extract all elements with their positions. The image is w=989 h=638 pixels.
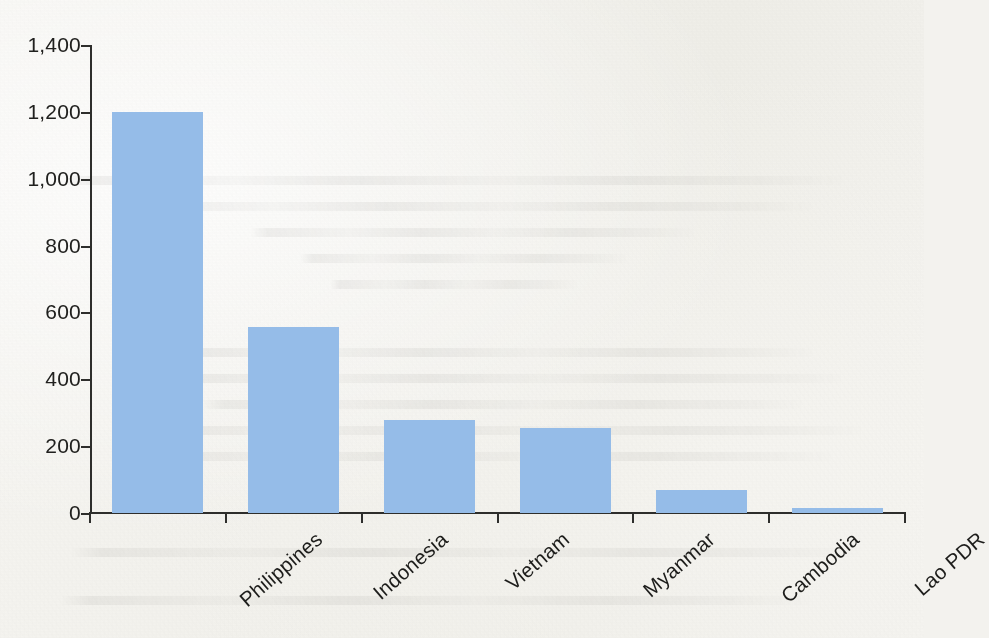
x-axis-tick-mark xyxy=(225,512,227,523)
bar-cambodia xyxy=(656,490,747,513)
x-axis-category-label: Indonesia xyxy=(368,527,452,605)
y-axis-tick-label: 1,400 xyxy=(27,33,81,57)
y-axis-tick-label: 1,000 xyxy=(27,167,81,191)
x-axis-tick-mark xyxy=(497,512,499,523)
y-axis-tick-label: 200 xyxy=(45,434,81,458)
plot-area: 02004006008001,0001,2001,400 xyxy=(90,45,905,513)
x-axis-category-label: Lao PDR xyxy=(910,527,989,601)
x-axis-tick-mark xyxy=(768,512,770,523)
y-axis-tick-label: 600 xyxy=(45,300,81,324)
x-axis-category-label: Vietnam xyxy=(500,527,573,595)
x-axis-tick-mark xyxy=(632,512,634,523)
bar-philippines xyxy=(112,112,203,513)
x-axis-category-label: Philippines xyxy=(235,527,327,612)
y-axis-tick-mark xyxy=(81,179,90,181)
y-axis-tick-mark xyxy=(81,45,90,47)
bar-indonesia xyxy=(248,327,339,513)
y-axis-tick-mark xyxy=(81,246,90,248)
y-axis-tick-mark xyxy=(81,312,90,314)
bar-vietnam xyxy=(384,420,475,513)
x-axis-category-label: Cambodia xyxy=(777,527,864,607)
y-axis-tick-label: 0 xyxy=(69,501,81,525)
y-axis-tick-mark xyxy=(81,379,90,381)
y-axis-tick-label: 800 xyxy=(45,234,81,258)
x-axis-tick-mark xyxy=(89,512,91,523)
y-axis-tick-mark xyxy=(81,112,90,114)
y-axis-tick-label: 1,200 xyxy=(27,100,81,124)
x-axis-tick-mark xyxy=(904,512,906,523)
y-axis-tick-mark xyxy=(81,446,90,448)
x-axis-category-label: Myanmar xyxy=(639,527,720,602)
x-axis-tick-mark xyxy=(361,512,363,523)
bar-myanmar xyxy=(520,428,611,513)
y-axis-tick-label: 400 xyxy=(45,367,81,391)
bar-lao-pdr xyxy=(792,508,883,513)
